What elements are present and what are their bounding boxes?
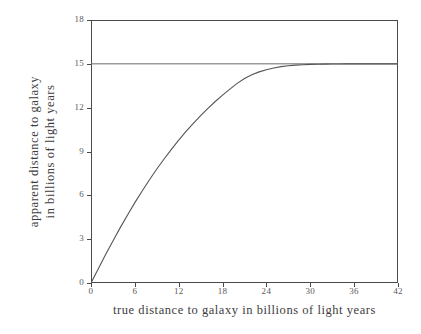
x-tick-label: 6 xyxy=(120,286,150,296)
x-tick-label: 24 xyxy=(251,286,281,296)
x-tick-label: 0 xyxy=(76,286,106,296)
y-axis-label-line-2: in billions of light years xyxy=(42,20,305,283)
x-axis-label: true distance to galaxy in billions of l… xyxy=(91,303,398,318)
x-tick-label: 30 xyxy=(295,286,325,296)
y-axis-label: apparent distance to galaxy in billions … xyxy=(0,20,58,283)
x-tick-label: 18 xyxy=(208,286,238,296)
x-tick-label: 12 xyxy=(164,286,194,296)
chart-page: 06121824303642 0369121518 true distance … xyxy=(0,0,421,334)
x-tick-label: 42 xyxy=(383,286,413,296)
x-tick-label: 36 xyxy=(339,286,369,296)
y-tick xyxy=(87,283,91,284)
